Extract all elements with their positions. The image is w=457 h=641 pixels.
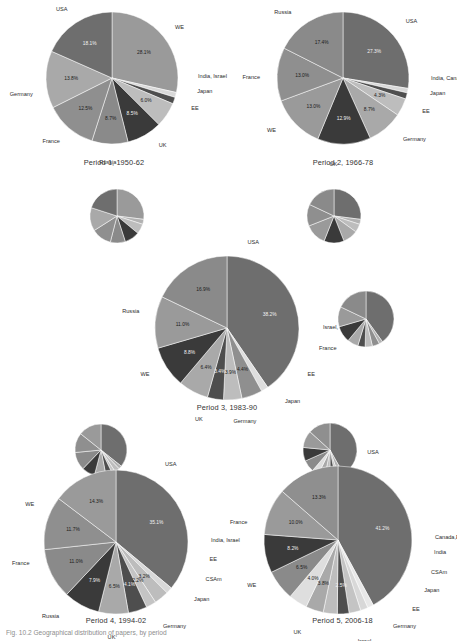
pie-chart-period3-small <box>335 288 397 350</box>
pie-slice-percent: 35.1% <box>149 520 164 525</box>
pie-category-label: WE <box>25 501 34 507</box>
pie-slice-percent: 12.5% <box>78 106 93 111</box>
pie-chart-period1-small <box>86 188 148 248</box>
pie-slice-percent: 14.3% <box>89 499 104 504</box>
pie-slice-percent: 3.8% <box>318 581 330 586</box>
pie-category-label: WE <box>140 371 149 377</box>
pie-slice-percent: 17.4% <box>315 40 330 45</box>
caption-period1: Period 1, 1950-62 <box>0 158 228 167</box>
caption-period2: Period 2, 1966-78 <box>229 158 457 167</box>
pie-chart-period3: 38.2%4.4%3.9%3.4%6.4%8.8%11.0%16.9%USAIs… <box>96 250 358 402</box>
pie-category-label: France <box>42 138 59 144</box>
pie-category-label: UK <box>195 416 203 422</box>
pie-category-label: CSAm <box>431 569 448 575</box>
pie-slices-period2 <box>277 12 409 144</box>
pie-category-label: EE <box>191 105 199 111</box>
pie-category-label: EE <box>412 606 420 612</box>
pie-chart-period4: 35.1%3.2%2.2%4.1%6.5%7.9%11.0%11.7%14.3%… <box>0 462 232 618</box>
caption-period4: Period 4, 1994-02 <box>0 616 232 625</box>
pie-slice <box>117 189 144 219</box>
pie-category-label: Canada,EA <box>435 534 457 540</box>
pie-category-label: WE <box>247 582 256 588</box>
pie-category-label: USA <box>406 18 418 24</box>
pie-slice-percent: 13.0% <box>295 73 310 78</box>
pie-category-label: Germany <box>10 91 33 97</box>
pie-category-label: France <box>12 560 29 566</box>
pie-svg-period3: 38.2%4.4%3.9%3.4%6.4%8.8%11.0%16.9%USAIs… <box>96 250 358 402</box>
pie-slice-percent: 4.3% <box>374 93 386 98</box>
pie-category-label: USA <box>367 449 379 455</box>
pie-category-label: WE <box>175 24 184 30</box>
pie-category-label: WE <box>267 127 276 133</box>
pie-category-label: Germany <box>403 136 426 142</box>
pie-slice-percent: 6.5% <box>296 565 308 570</box>
pie-slice-percent: 4.4% <box>237 367 249 372</box>
pie-slice-percent: 11.0% <box>69 559 83 564</box>
pie-category-label: Japan <box>194 596 209 602</box>
pie-slices-period5 <box>264 466 412 614</box>
pie-svg-period2-small <box>303 188 365 248</box>
pie-svg-period1: 28.1%6.0%8.5%8.7%12.5%13.8%18.1%WEIndia,… <box>0 4 228 154</box>
pie-slice-percent: 3.4% <box>214 369 226 374</box>
figure-root: 28.1%6.0%8.5%8.7%12.5%13.8%18.1%WEIndia,… <box>0 0 457 641</box>
pie-category-label: France <box>230 519 247 525</box>
caption-period5: Period 5, 2006-18 <box>228 616 457 625</box>
pie-slice-percent: 13.0% <box>307 104 322 109</box>
pie-category-label: UK <box>159 142 167 148</box>
pie-category-label: Japan <box>197 88 212 94</box>
pie-category-label: CSAm <box>206 576 223 582</box>
pie-category-label: Germany <box>233 418 256 424</box>
pie-slice-percent: 10.0% <box>289 520 304 525</box>
pie-slice-percent: 2.5% <box>336 583 348 588</box>
pie-slice-percent: 6.5% <box>109 584 121 589</box>
pie-slices-period3-small <box>338 291 394 347</box>
pie-chart-period1: 28.1%6.0%8.5%8.7%12.5%13.8%18.1%WEIndia,… <box>0 4 228 154</box>
pie-slice-percent: 3.9% <box>225 370 237 375</box>
pie-slice-percent: 8.7% <box>105 116 117 121</box>
figure-caption: Fig. 10.2 Geographical distribution of p… <box>6 629 451 640</box>
pie-slice <box>334 189 361 219</box>
pie-slice-percent: 12.9% <box>337 116 352 121</box>
pie-category-label: India <box>434 549 447 555</box>
pie-slice-percent: 28.1% <box>137 50 152 55</box>
pie-slice-percent: 41.2% <box>376 526 391 531</box>
pie-slice-percent: 8.7% <box>364 107 376 112</box>
pie-slices-period4 <box>44 470 188 614</box>
pie-slice-percent: 11.7% <box>66 527 80 532</box>
pie-category-label: EE <box>422 108 430 114</box>
pie-slice-percent: 6.4% <box>200 365 212 370</box>
pie-slice-percent: 38.2% <box>263 312 278 317</box>
pie-slices-period2-small <box>307 189 361 243</box>
pie-slice-percent: 6.0% <box>140 98 152 103</box>
pie-category-label: EE <box>210 556 218 562</box>
pie-slices-period3 <box>155 256 299 400</box>
pie-category-label: USA <box>56 6 68 12</box>
pie-slice-percent: 27.3% <box>367 49 382 54</box>
pie-category-label: India, Israel <box>198 73 227 79</box>
pie-slice-percent: 8.2% <box>287 546 299 551</box>
pie-category-label: India, Canada <box>431 75 457 81</box>
pie-category-label: France <box>319 345 336 351</box>
pie-svg-period5: 41.2%2.5%3.8%4.0%6.5%8.2%10.0%13.3%USACa… <box>228 460 457 618</box>
pie-slice-percent: 4.0% <box>308 576 320 581</box>
pie-slices-period1-small <box>90 189 144 243</box>
pie-slice-percent: 16.9% <box>196 287 211 292</box>
pie-slice-percent: 13.8% <box>64 76 79 81</box>
pie-category-label: France <box>243 74 260 80</box>
pie-chart-period2: 27.3%4.3%8.7%12.9%13.0%13.0%17.4%USAIndi… <box>229 4 457 154</box>
pie-slice-percent: 18.1% <box>83 41 98 46</box>
pie-svg-period2: 27.3%4.3%8.7%12.9%13.0%13.0%17.4%USAIndi… <box>229 4 457 154</box>
pie-category-label: USA <box>248 239 260 245</box>
pie-slice-percent: 7.9% <box>89 578 101 583</box>
pie-svg-period1-small <box>86 188 148 248</box>
caption-period3: Period 3, 1983-90 <box>96 403 358 412</box>
pie-category-label: Russia <box>274 9 292 15</box>
pie-category-label: Japan <box>424 587 439 593</box>
pie-slice-percent: 8.8% <box>184 350 196 355</box>
pie-chart-period2-small <box>303 188 365 248</box>
pie-slice-percent: 8.5% <box>127 111 139 116</box>
pie-category-label: Russia <box>122 308 140 314</box>
pie-slice-percent: 13.3% <box>312 495 327 500</box>
pie-svg-period3-small <box>335 288 397 350</box>
pie-slice-percent: 11.0% <box>176 322 190 327</box>
